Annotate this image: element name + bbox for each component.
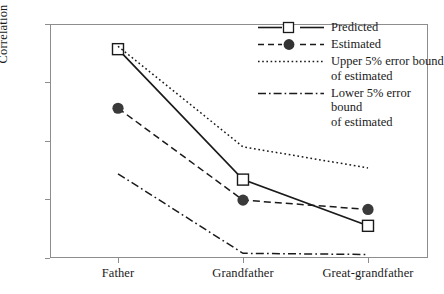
legend-item-estimated: Estimated bbox=[258, 37, 444, 52]
chart-figure: Correlation 0.4 0.3 0.2 0.1 0.0 Father G… bbox=[0, 0, 444, 294]
legend-label-lower-bound: Lower 5% error bound of estimated bbox=[331, 86, 444, 130]
legend-label-predicted: Predicted bbox=[331, 20, 378, 35]
marker-1-0 bbox=[112, 103, 123, 114]
marker-1-2 bbox=[362, 204, 373, 215]
chart-legend: Predicted Estimated Upper 5% error bound… bbox=[258, 20, 444, 132]
legend-item-upper-bound: Upper 5% error bound of estimated bbox=[258, 54, 444, 84]
legend-key-upper-bound-line bbox=[258, 54, 324, 69]
marker-0-2 bbox=[363, 220, 374, 231]
legend-item-lower-bound: Lower 5% error bound of estimated bbox=[258, 86, 444, 130]
marker-0-1 bbox=[238, 174, 249, 185]
legend-key-estimated-line bbox=[258, 37, 324, 52]
marker-1-1 bbox=[237, 194, 248, 205]
legend-label-estimated: Estimated bbox=[331, 37, 381, 52]
legend-key-predicted-line bbox=[258, 20, 324, 35]
legend-key-lower-bound-line bbox=[258, 86, 324, 101]
legend-label-upper-bound: Upper 5% error bound of estimated bbox=[331, 54, 444, 84]
legend-item-predicted: Predicted bbox=[258, 20, 444, 35]
series-line-3 bbox=[118, 174, 368, 255]
